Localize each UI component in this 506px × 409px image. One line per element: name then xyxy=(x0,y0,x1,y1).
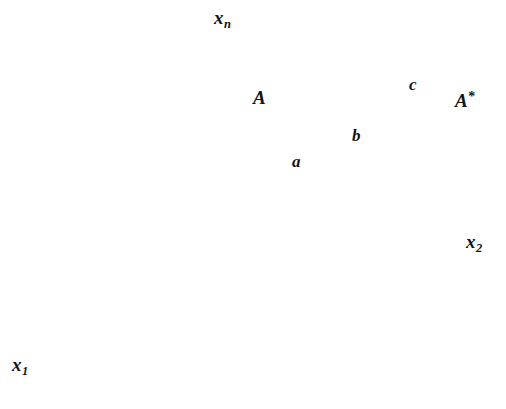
set-label-A-base: A xyxy=(253,87,266,108)
axis-label-xn-base: x xyxy=(214,7,224,28)
set-label-Astar: A* xyxy=(455,90,475,110)
set-label-Astar-base: A xyxy=(455,90,468,111)
axis-label-x1-subscript: 1 xyxy=(22,364,28,378)
axis-label-x1-base: x xyxy=(12,354,22,375)
axis-label-x2-base: x xyxy=(466,231,476,252)
region-label-c: c xyxy=(409,76,417,93)
figure-container: xn x2 x1 A A* a b c xyxy=(0,0,506,409)
set-label-Astar-superscript: * xyxy=(468,89,475,104)
axis-label-x1: x1 xyxy=(12,355,28,378)
axis-label-x2-subscript: 2 xyxy=(476,241,482,255)
axis-label-xn-subscript: n xyxy=(224,17,231,31)
axis-label-xn: xn xyxy=(214,8,231,31)
set-label-A: A xyxy=(253,88,266,107)
region-label-b: b xyxy=(352,127,361,144)
region-label-a: a xyxy=(292,153,301,170)
axis-label-x2: x2 xyxy=(466,232,482,255)
set-diagram-svg xyxy=(0,0,506,409)
